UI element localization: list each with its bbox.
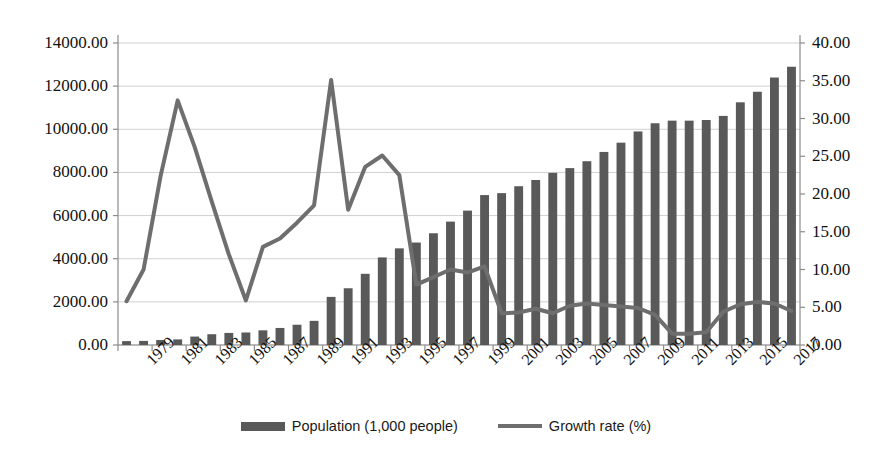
bar	[565, 168, 574, 345]
axes	[113, 35, 805, 351]
bar	[429, 233, 438, 345]
bar-swatch-icon	[241, 422, 285, 431]
bar	[599, 152, 608, 345]
bar	[668, 121, 677, 345]
bar	[446, 222, 455, 345]
bar	[139, 341, 148, 345]
bar	[617, 143, 626, 345]
y-axis-right-tick-label: 25.00	[812, 147, 850, 164]
y-axis-right-tick-label: 10.00	[812, 261, 850, 278]
y-axis-right-tick-label: 5.00	[812, 298, 842, 315]
y-axis-right-tick-label: 40.00	[812, 34, 850, 51]
bar	[531, 180, 540, 345]
bar	[344, 288, 353, 345]
y-axis-left-tick-label: 14000.00	[44, 34, 108, 51]
legend-label-growth-rate: Growth rate (%)	[549, 418, 651, 434]
chart-legend: Population (1,000 people) Growth rate (%…	[0, 418, 892, 434]
legend-item-growth-rate[interactable]: Growth rate (%)	[498, 418, 651, 434]
bar	[685, 121, 694, 345]
y-axis-right-tick-label: 30.00	[812, 110, 850, 127]
bar	[736, 102, 745, 345]
line-swatch-icon	[498, 424, 542, 428]
bar	[463, 211, 472, 345]
bar	[378, 257, 387, 345]
bar	[702, 120, 711, 345]
bar	[548, 173, 557, 345]
bar	[497, 193, 506, 345]
legend-label-population: Population (1,000 people)	[292, 418, 458, 434]
bar	[122, 341, 131, 345]
y-axis-left-tick-label: 0.00	[78, 336, 108, 353]
bar	[310, 321, 319, 345]
gridlines	[118, 43, 800, 345]
y-axis-right-tick-label: 15.00	[812, 223, 850, 240]
chart-plot-area	[0, 0, 892, 465]
bar-series-population	[122, 67, 796, 345]
bar	[582, 161, 591, 345]
y-axis-left-tick-label: 6000.00	[53, 207, 108, 224]
bar	[787, 67, 796, 345]
y-axis-left-tick-label: 4000.00	[53, 250, 108, 267]
y-axis-left-tick-label: 8000.00	[53, 163, 108, 180]
y-axis-left-tick-label: 2000.00	[53, 293, 108, 310]
legend-item-population[interactable]: Population (1,000 people)	[241, 418, 458, 434]
bar	[395, 248, 404, 345]
combo-chart: 0.002000.004000.006000.008000.0010000.00…	[0, 0, 892, 465]
bar	[634, 131, 643, 345]
y-axis-left-tick-label: 12000.00	[44, 77, 108, 94]
y-axis-left-tick-label: 10000.00	[44, 120, 108, 137]
y-axis-right-tick-label: 20.00	[812, 185, 850, 202]
bar	[753, 92, 762, 345]
y-axis-right-tick-label: 35.00	[812, 72, 850, 89]
bar	[514, 186, 523, 345]
